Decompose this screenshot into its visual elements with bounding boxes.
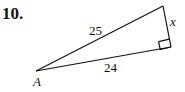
adjacent-label: 24 — [104, 60, 118, 75]
vertex-a-label: A — [32, 74, 41, 89]
opposite-label: x — [169, 14, 176, 29]
hypotenuse-label: 25 — [89, 23, 102, 38]
right-triangle-diagram: 25 24 x A — [0, 0, 185, 92]
right-angle-marker-inner — [159, 39, 170, 42]
right-angle-marker — [159, 42, 171, 50]
hypotenuse-side — [36, 6, 163, 71]
